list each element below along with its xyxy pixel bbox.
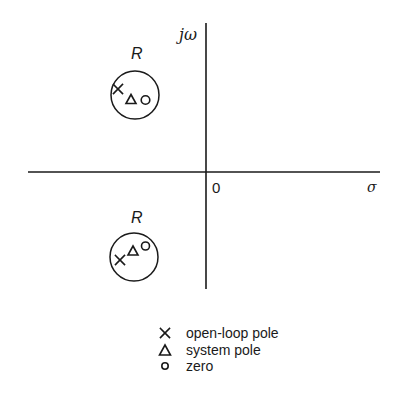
origin-label: 0 (212, 180, 220, 195)
region-lower (110, 233, 158, 281)
triangle-icon (126, 95, 136, 104)
cross-icon (158, 326, 172, 340)
cross-icon (114, 85, 123, 94)
region-label-lower: R (131, 210, 143, 226)
legend-item-open-loop-pole: open-loop pole (158, 325, 279, 342)
circle-icon (142, 242, 150, 250)
cross-icon (116, 256, 125, 265)
region-upper (111, 71, 159, 119)
legend-item-zero: zero (158, 358, 279, 375)
region-label-upper: R (131, 46, 143, 62)
legend-item-system-pole: system pole (158, 342, 279, 359)
imaginary-axis-label: jω (179, 27, 197, 43)
triangle-icon (128, 246, 138, 255)
circle-icon (158, 359, 172, 373)
legend-label: open-loop pole (186, 325, 279, 341)
legend: open-loop pole system pole zero (158, 325, 279, 375)
region-circle-upper (111, 71, 159, 119)
real-axis-label: σ (367, 180, 377, 194)
triangle-icon (158, 343, 172, 357)
legend-label: system pole (186, 342, 261, 358)
circle-icon (141, 96, 150, 105)
legend-label: zero (186, 358, 213, 374)
